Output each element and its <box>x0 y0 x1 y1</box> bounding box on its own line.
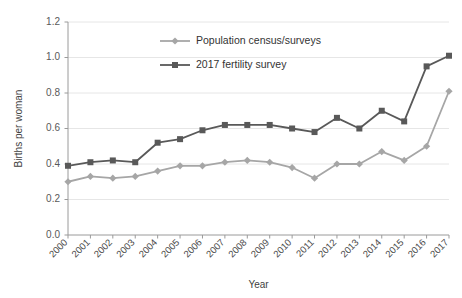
data-point <box>289 164 296 171</box>
x-tick-label: 2010 <box>271 237 294 260</box>
x-tick-label: 2000 <box>47 237 70 260</box>
data-point <box>244 157 251 164</box>
data-point <box>356 160 363 167</box>
y-tick-label: 1.0 <box>46 51 60 62</box>
legend-label-2: 2017 fertility survey <box>196 58 287 70</box>
data-point <box>110 157 116 163</box>
data-point <box>379 108 385 114</box>
fertility-line-chart: 0.00.20.40.60.81.01.22000200120022003200… <box>0 0 462 298</box>
y-axis-title: Births per woman <box>13 90 24 168</box>
data-point <box>176 162 183 169</box>
data-point <box>154 168 161 175</box>
data-point <box>87 159 93 165</box>
data-point <box>64 178 71 185</box>
legend-marker-2 <box>172 62 178 68</box>
y-tick-label: 1.2 <box>46 16 60 27</box>
x-tick-label: 2002 <box>92 237 115 260</box>
x-tick-label: 2009 <box>248 237 271 260</box>
series-2 <box>65 53 452 169</box>
data-point <box>244 122 250 128</box>
x-tick-label: 2013 <box>338 237 361 260</box>
data-point <box>445 88 452 95</box>
data-point <box>424 63 430 69</box>
legend-label-1: Population census/surveys <box>196 34 321 46</box>
y-tick-label: 0.4 <box>46 158 60 169</box>
x-tick-label: 2011 <box>294 237 316 259</box>
x-tick-label: 2017 <box>428 237 451 260</box>
x-tick-label: 2016 <box>405 237 428 260</box>
x-tick-label: 2015 <box>383 237 406 260</box>
data-point <box>266 159 273 166</box>
x-axis-title: Year <box>248 279 269 290</box>
x-tick-label: 2012 <box>316 237 339 260</box>
y-tick-label: 0.0 <box>46 229 60 240</box>
data-point <box>221 159 228 166</box>
data-point <box>199 127 205 133</box>
data-point <box>132 159 138 165</box>
data-point <box>356 126 362 132</box>
axes <box>65 22 450 239</box>
y-tick-labels: 0.00.20.40.60.81.01.2 <box>46 16 60 240</box>
y-tick-label: 0.6 <box>46 122 60 133</box>
gridlines <box>68 22 449 200</box>
data-point <box>65 163 71 169</box>
series-1 <box>64 88 452 186</box>
y-tick-label: 0.2 <box>46 193 60 204</box>
data-point <box>289 126 295 132</box>
chart-canvas: 0.00.20.40.60.81.01.22000200120022003200… <box>0 0 462 298</box>
data-point <box>267 122 273 128</box>
x-tick-label: 2008 <box>226 237 249 260</box>
x-tick-label: 2003 <box>114 237 137 260</box>
x-tick-labels: 2000200120022003200420052006200720082009… <box>47 237 451 260</box>
data-point <box>155 140 161 146</box>
x-tick-label: 2004 <box>136 237 159 260</box>
data-point <box>378 148 385 155</box>
legend-marker-1 <box>171 37 178 44</box>
data-point <box>109 175 116 182</box>
data-point <box>199 162 206 169</box>
data-point <box>222 122 228 128</box>
data-point <box>87 173 94 180</box>
data-point <box>334 115 340 121</box>
data-point <box>312 129 318 135</box>
data-point <box>177 136 183 142</box>
y-tick-label: 0.8 <box>46 87 60 98</box>
x-tick-label: 2006 <box>181 237 204 260</box>
x-tick-label: 2005 <box>159 237 182 260</box>
series-line <box>68 91 449 182</box>
data-point <box>132 173 139 180</box>
data-point <box>446 53 452 59</box>
series-line <box>68 56 449 166</box>
data-point <box>401 118 407 124</box>
legend: Population census/surveys2017 fertility … <box>160 34 321 70</box>
x-tick-label: 2007 <box>204 237 227 260</box>
x-tick-label: 2001 <box>69 237 92 260</box>
x-tick-label: 2014 <box>360 237 383 260</box>
